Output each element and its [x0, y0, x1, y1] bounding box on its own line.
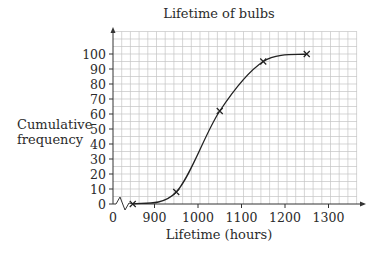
axes — [111, 27, 367, 210]
x-tick-label: 1000 — [182, 210, 214, 225]
x-tick-label: 1300 — [313, 210, 345, 225]
x-tick-label: 900 — [143, 210, 167, 225]
x-tick-label: 1200 — [269, 210, 301, 225]
x-tick-label: 1100 — [226, 210, 258, 225]
y-tick-label: 100 — [82, 47, 106, 62]
y-tick-label: 20 — [90, 167, 106, 182]
y-tick-label: 90 — [90, 62, 106, 77]
x-tick-label: 0 — [109, 210, 117, 225]
x-axis-label: Lifetime (hours) — [0, 228, 372, 242]
y-tick-label: 80 — [90, 77, 106, 92]
y-axis-label: Cumulativefrequency — [17, 117, 97, 147]
chart-title: Lifetime of bulbs — [0, 7, 372, 21]
y-tick-label: 0 — [98, 197, 106, 212]
y-tick-label: 70 — [90, 92, 106, 107]
grid — [113, 32, 357, 205]
y-tick-label: 30 — [90, 152, 106, 167]
y-tick-label: 10 — [90, 182, 106, 197]
